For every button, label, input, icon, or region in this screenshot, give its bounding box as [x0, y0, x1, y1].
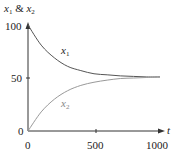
- y-axis-label: x1 & x2: [3, 2, 35, 16]
- x-tick-label-0: 0: [25, 139, 31, 151]
- chart: x1 & x2 100 50 0 0 500 1000 t x1 x2: [0, 0, 175, 153]
- y-tick-label-0: 0: [18, 125, 24, 137]
- x-tick-label-500: 500: [87, 139, 104, 151]
- series-x1-line: [28, 25, 160, 77]
- y-tick-label-100: 100: [5, 20, 22, 32]
- series-x2-label: x2: [60, 97, 70, 111]
- x-axis-label: t: [167, 124, 171, 136]
- series-x1-label: x1: [60, 44, 70, 58]
- series-x2-line: [28, 77, 160, 131]
- x-axis-arrow-icon: [158, 129, 165, 134]
- x-tick-label-1000: 1000: [146, 139, 169, 151]
- y-tick-label-50: 50: [11, 72, 23, 84]
